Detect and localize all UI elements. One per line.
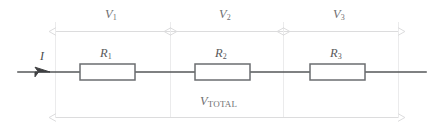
resistor-label-r3: R3 — [330, 47, 342, 60]
resistor-label-r1: R1 — [100, 47, 112, 60]
resistor-body-r1 — [80, 64, 135, 80]
current-direction-arrow — [35, 67, 50, 77]
voltage-label-v1: V1 — [105, 8, 117, 21]
resistor-label-r2: R2 — [215, 47, 227, 60]
voltage-label-v3: V3 — [333, 8, 345, 21]
series-circuit-diagram: V1 V2 V3 I R1 R2 R3 VTOTAL — [0, 0, 443, 138]
resistor-body-r2 — [195, 64, 250, 80]
total-voltage-label: VTOTAL — [200, 95, 237, 108]
voltage-label-v2: V2 — [219, 8, 231, 21]
resistor-symbols — [80, 64, 365, 80]
current-label-i: I — [40, 50, 44, 62]
resistor-body-r3 — [310, 64, 365, 80]
